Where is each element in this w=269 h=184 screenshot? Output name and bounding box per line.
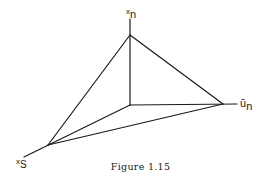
tetrahedron-diagram (0, 0, 269, 184)
label-xn: xn (126, 6, 136, 17)
label-un: ūn (240, 98, 252, 109)
label-un-sub: n (246, 100, 252, 112)
axis-xs (24, 105, 130, 157)
figure-canvas: xn ūn xs Figure 1.15 (0, 0, 269, 184)
figure-caption: Figure 1.15 (0, 161, 269, 172)
edge-top-right (130, 35, 223, 104)
label-xn-sub: n (130, 8, 136, 20)
